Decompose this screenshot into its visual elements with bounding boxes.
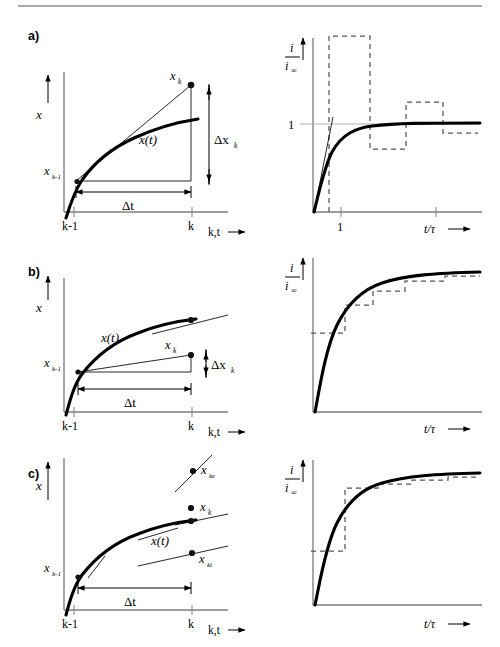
label-xki-sub: ki bbox=[207, 561, 212, 569]
label-delta-t: Δt bbox=[122, 198, 134, 213]
x-axis-label: t/τ bbox=[424, 422, 436, 436]
point-xk-prev bbox=[75, 574, 80, 579]
label-xk: x k bbox=[199, 500, 212, 517]
y-tick-label-1: 1 bbox=[288, 118, 294, 132]
label-xk-prev: x k-1 bbox=[43, 561, 61, 578]
x-tick-label-k: k bbox=[188, 419, 194, 433]
initial-tangent bbox=[314, 117, 333, 212]
label-xke-base: x bbox=[200, 463, 207, 477]
label-xk-base: x bbox=[164, 338, 171, 352]
row-label-a: a) bbox=[28, 29, 39, 43]
x-tick-label-k: k bbox=[188, 617, 194, 631]
label-xk-base: x bbox=[199, 500, 206, 514]
x-axis-label: t/τ bbox=[424, 617, 436, 631]
label-delta-t: Δt bbox=[124, 395, 136, 410]
delta-x-sub: k bbox=[231, 366, 235, 375]
secant-line bbox=[76, 85, 191, 181]
delta-x-sub: k bbox=[234, 141, 238, 150]
tangent-implicit bbox=[138, 546, 228, 566]
tangent-segment-right bbox=[175, 514, 228, 525]
row-label-b: b) bbox=[28, 265, 40, 279]
x-tick-label-k: k bbox=[188, 219, 194, 233]
label-xkprev-sub: k-1 bbox=[52, 173, 61, 181]
y-num: i bbox=[290, 41, 294, 55]
panel-c-left: x x(t) x ke x k x ki x k-1 Δt k-1 k k,t bbox=[35, 455, 245, 637]
delta-x-text: Δx bbox=[211, 357, 226, 372]
row-c: c) bbox=[28, 455, 482, 637]
label-xkprev-sub: k-1 bbox=[52, 365, 61, 373]
point-xk bbox=[188, 82, 195, 89]
point-x-ki bbox=[189, 550, 195, 556]
exponential-curve bbox=[314, 123, 480, 212]
label-x-ke: x ke bbox=[200, 463, 215, 480]
y-axis-label-fraction: i i ∞ bbox=[285, 41, 300, 75]
x-axis-label: k,t bbox=[208, 426, 221, 439]
x-tick-label-k-minus-1: k-1 bbox=[62, 419, 78, 433]
x-axis-label-group: t/τ bbox=[424, 617, 470, 631]
curve-label: x(t) bbox=[100, 330, 119, 345]
label-xk-base: x bbox=[169, 69, 176, 83]
label-xkprev-base: x bbox=[43, 356, 50, 370]
label-xk-sub: k bbox=[178, 77, 182, 86]
y-axis-label-fraction: i i ∞ bbox=[285, 463, 300, 497]
label-x-ki: x ki bbox=[198, 552, 212, 569]
y-axis-label-fraction: i i ∞ bbox=[285, 261, 300, 295]
label-xk-sub: k bbox=[208, 508, 212, 517]
row-a: a) bbox=[28, 29, 482, 239]
curve-label: x(t) bbox=[150, 533, 169, 548]
label-xki-base: x bbox=[198, 552, 205, 566]
point-x-ke bbox=[190, 468, 196, 474]
label-xk-prev: x k-1 bbox=[43, 164, 61, 181]
label-xkprev-sub: k-1 bbox=[52, 570, 61, 578]
y-den: i bbox=[285, 59, 289, 73]
label-delta-xk: Δx k bbox=[211, 357, 235, 375]
panel-a-left: x x k x k-1 x(t) Δx k Δt k-1 k k,t bbox=[35, 69, 245, 239]
point-xk-prev bbox=[74, 179, 79, 184]
y-den: i bbox=[285, 481, 289, 495]
panel-c-right: i i ∞ t/τ bbox=[285, 460, 482, 631]
x-axis-label: k,t bbox=[208, 226, 221, 239]
x-tick-label-k-minus-1: k-1 bbox=[62, 617, 78, 631]
label-xkprev-base: x bbox=[43, 164, 50, 178]
point-xk bbox=[188, 352, 194, 358]
curve-label: x(t) bbox=[138, 132, 157, 147]
y-den-sub: ∞ bbox=[291, 66, 297, 75]
x-axis-label: k,t bbox=[208, 624, 221, 637]
y-num: i bbox=[290, 463, 294, 477]
row-b: b) bbox=[28, 258, 482, 439]
y-axis-label: x bbox=[35, 478, 42, 493]
point-on-curve-at-k bbox=[188, 518, 194, 524]
panel-b-left: x x(t) x k x k-1 Δx k Δt k-1 k k,t bbox=[35, 276, 245, 439]
point-xk-prev bbox=[75, 369, 80, 374]
label-xk-sub: k bbox=[173, 346, 177, 355]
exponential-curve bbox=[315, 272, 480, 412]
label-delta-xk: Δx k bbox=[214, 132, 238, 150]
label-xk-prev: x k-1 bbox=[43, 356, 61, 373]
label-xke-sub: ke bbox=[209, 472, 215, 480]
point-xk bbox=[188, 505, 194, 511]
y-num: i bbox=[290, 261, 294, 275]
label-xk: x k bbox=[169, 69, 182, 86]
label-xk: x k bbox=[164, 338, 177, 355]
figure-root: a) bbox=[0, 0, 500, 647]
exponential-curve bbox=[315, 473, 480, 605]
x-axis-label: t/τ bbox=[424, 222, 436, 236]
x-tick-label-1: 1 bbox=[337, 220, 343, 234]
panel-a-right: i i ∞ 1 1 t/τ bbox=[285, 36, 482, 236]
y-den-sub: ∞ bbox=[291, 488, 297, 497]
delta-x-text: Δx bbox=[214, 132, 229, 147]
y-den: i bbox=[285, 279, 289, 293]
x-axis-label-group: t/τ bbox=[424, 422, 470, 436]
y-axis-label: x bbox=[35, 300, 42, 315]
point-on-curve-at-k bbox=[188, 317, 194, 323]
trapezoidal-staircase bbox=[311, 477, 480, 551]
y-den-sub: ∞ bbox=[291, 286, 297, 295]
label-xkprev-base: x bbox=[43, 561, 50, 575]
x-tick-label-k-minus-1: k-1 bbox=[62, 219, 78, 233]
y-axis-label: x bbox=[35, 107, 42, 122]
panel-b-right: i i ∞ t/τ bbox=[285, 258, 482, 436]
x-axis-label-group: t/τ bbox=[424, 222, 470, 236]
label-delta-t: Δt bbox=[124, 594, 136, 609]
